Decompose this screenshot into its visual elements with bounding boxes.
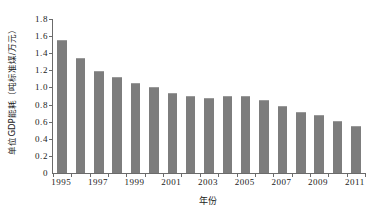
bar (314, 115, 324, 173)
x-axis-tick-labels: 199519971999200120032005200720092011 (52, 177, 364, 191)
bar (241, 96, 251, 173)
bar (94, 71, 104, 173)
bar (168, 93, 178, 173)
y-axis-tick-mark (49, 139, 53, 140)
bar (351, 126, 361, 173)
bars-layer (53, 19, 365, 173)
plot-area (52, 19, 365, 174)
y-axis-tick-label: 1.6 (35, 31, 48, 41)
y-axis-tick-label: 1.0 (35, 82, 48, 92)
x-axis-tick-mark (365, 173, 366, 177)
y-axis-title-text: 单位GDP能耗（吨标准煤/万元） (5, 25, 17, 154)
x-axis-tick-label: 2011 (345, 177, 365, 187)
bar-chart: 单位GDP能耗（吨标准煤/万元） 1.81.61.41.21.00.80.60.… (0, 0, 373, 218)
x-axis-tick-label: 1995 (51, 177, 71, 187)
y-axis-tick-label: 0.4 (35, 134, 48, 144)
bar (57, 40, 67, 173)
bar (223, 96, 233, 173)
bar (204, 98, 214, 173)
y-axis-tick-label: 1.4 (35, 48, 48, 58)
bar (278, 106, 288, 173)
x-axis-tick-label: 2005 (235, 177, 255, 187)
y-axis-tick-label: 0 (43, 168, 48, 178)
y-axis-tick-mark (49, 19, 53, 20)
x-axis-tick-label: 1999 (125, 177, 145, 187)
y-axis-tick-label: 0.6 (35, 117, 48, 127)
bar (296, 112, 306, 173)
y-axis-tick-mark (49, 156, 53, 157)
x-axis-title: 年份 (52, 194, 364, 207)
y-axis-tick-mark (49, 105, 53, 106)
y-axis-tick-mark (49, 87, 53, 88)
x-axis-tick-label: 2003 (198, 177, 218, 187)
bar (149, 87, 159, 173)
y-axis-tick-label: 1.8 (35, 14, 48, 24)
y-axis-tick-mark (49, 36, 53, 37)
bar (333, 121, 343, 173)
x-axis-tick-label: 2009 (308, 177, 328, 187)
bar (112, 77, 122, 173)
y-axis-tick-mark (49, 70, 53, 71)
bar (186, 96, 196, 173)
y-axis-tick-label: 0.8 (35, 100, 48, 110)
y-axis-tick-mark (49, 122, 53, 123)
x-axis-tick-label: 2007 (271, 177, 291, 187)
x-axis-tick-label: 1997 (88, 177, 108, 187)
y-axis-title: 单位GDP能耗（吨标准煤/万元） (0, 0, 22, 180)
bar (76, 58, 86, 174)
y-axis-tick-label: 0.2 (35, 151, 48, 161)
y-axis-tick-labels: 1.81.61.41.21.00.80.60.40.20 (20, 14, 50, 174)
y-axis-tick-mark (49, 53, 53, 54)
x-axis-tick-label: 2001 (161, 177, 181, 187)
bar (131, 83, 141, 173)
bar (259, 100, 269, 173)
y-axis-tick-label: 1.2 (35, 65, 48, 75)
